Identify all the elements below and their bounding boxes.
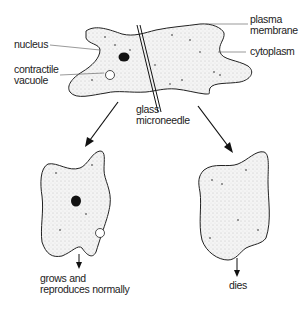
arrow-down-right-icon xyxy=(234,270,240,277)
label-cytoplasm: cytoplasm xyxy=(250,46,295,57)
amoeba-without-nucleus xyxy=(199,152,270,260)
label-reproduces-normally: reproduces normally xyxy=(40,284,129,295)
label-outcome-left: grows and reproduces normally xyxy=(40,273,129,295)
label-vacuole: vacuole xyxy=(14,75,59,86)
arrow-down-left-icon xyxy=(76,262,82,269)
amoeba-whole xyxy=(69,24,252,97)
label-glass-microneedle: glass microneedle xyxy=(136,104,190,126)
label-nucleus: nucleus xyxy=(14,39,48,50)
label-membrane: membrane xyxy=(250,25,298,36)
label-plasma-membrane: plasma membrane xyxy=(250,14,298,36)
arrow-right-icon xyxy=(224,142,233,153)
label-microneedle: microneedle xyxy=(136,115,190,126)
contractile-vacuole xyxy=(106,71,115,80)
nucleus xyxy=(119,53,130,62)
arrow-left-icon xyxy=(85,137,94,147)
label-outcome-right: dies xyxy=(229,280,247,291)
label-contractile-vacuole: contractile vacuole xyxy=(14,64,59,86)
